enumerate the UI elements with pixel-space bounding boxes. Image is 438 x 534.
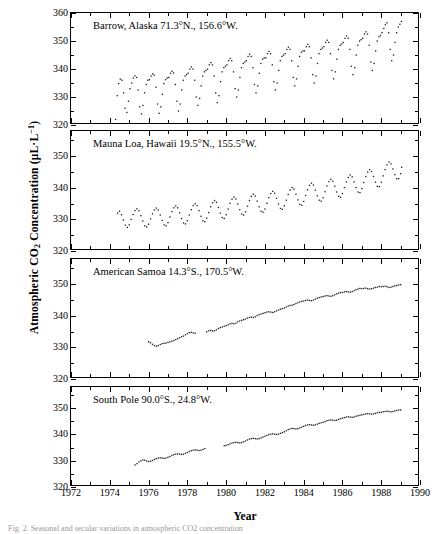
x-tick-mark <box>420 131 421 136</box>
y-tick-mark <box>71 251 76 252</box>
y-tick-label: 340 <box>53 429 68 439</box>
x-tick-mark <box>420 13 421 18</box>
panel-2: Mauna Loa, Hawaii 19.5°N., 155.5°W.32033… <box>70 130 419 250</box>
x-tick-mark <box>420 480 421 485</box>
x-tick-label: 1984 <box>294 488 314 498</box>
x-tick-label: 1976 <box>139 488 159 498</box>
plot-area <box>71 259 418 377</box>
x-tick-label: 1988 <box>371 488 391 498</box>
x-tick-mark <box>420 118 421 123</box>
y-tick-label: 350 <box>53 36 68 46</box>
data-series <box>71 387 418 485</box>
figure-caption: Fig. 2. Seasonal and secular variations … <box>8 524 432 533</box>
x-tick-mark <box>420 387 421 392</box>
y-axis-label-superscript: −1 <box>27 125 36 134</box>
data-series <box>71 131 418 249</box>
x-tick-label: 1990 <box>410 488 430 498</box>
x-tick-label: 1972 <box>61 488 81 498</box>
y-tick-mark <box>71 379 76 380</box>
data-series <box>71 13 418 123</box>
y-tick-mark <box>413 251 418 252</box>
y-tick-mark <box>413 125 418 126</box>
y-tick-label: 350 <box>53 403 68 413</box>
y-tick-label: 320 <box>53 246 68 256</box>
x-tick-mark <box>420 372 421 377</box>
y-tick-label: 350 <box>53 151 68 161</box>
x-tick-label: 1974 <box>100 488 120 498</box>
x-tick-mark <box>420 259 421 264</box>
y-tick-label: 330 <box>53 214 68 224</box>
x-tick-label: 1986 <box>332 488 352 498</box>
panel-3: American Samoa 14.3°S., 170.5°W.32033034… <box>70 258 419 378</box>
y-axis-label-prefix: Atmospheric CO <box>28 248 40 334</box>
y-axis-label-mid: Concentration (μL·L <box>28 134 40 244</box>
y-tick-label: 350 <box>53 279 68 289</box>
plot-area <box>71 387 418 485</box>
y-tick-mark <box>413 379 418 380</box>
y-tick-label: 320 <box>53 120 68 130</box>
y-tick-label: 340 <box>53 64 68 74</box>
y-tick-label: 330 <box>53 92 68 102</box>
panel-4: South Pole 90.0°S., 24.8°W.3203303403501… <box>70 386 419 486</box>
x-tick-label: 1982 <box>255 488 275 498</box>
y-axis-label-subscript: 2 <box>33 244 42 248</box>
x-axis-label: Year <box>70 510 420 522</box>
y-tick-mark <box>71 125 76 126</box>
y-tick-label: 320 <box>53 374 68 384</box>
y-axis-label: Atmospheric CO2 Concentration (μL·L−1) <box>27 98 42 358</box>
y-tick-label: 360 <box>53 8 68 18</box>
data-series <box>71 259 418 377</box>
y-tick-label: 330 <box>53 342 68 352</box>
plot-area <box>71 13 418 123</box>
y-tick-label: 330 <box>53 456 68 466</box>
plot-area <box>71 131 418 249</box>
x-tick-label: 1978 <box>177 488 197 498</box>
y-axis-label-suffix: ) <box>28 121 40 125</box>
y-tick-label: 340 <box>53 311 68 321</box>
x-tick-mark <box>420 244 421 249</box>
y-tick-label: 340 <box>53 183 68 193</box>
panel-1: Barrow, Alaska 71.3°N., 156.6°W.32033034… <box>70 12 419 124</box>
figure-co2-panels: Atmospheric CO2 Concentration (μL·L−1) B… <box>0 0 438 534</box>
x-tick-label: 1980 <box>216 488 236 498</box>
